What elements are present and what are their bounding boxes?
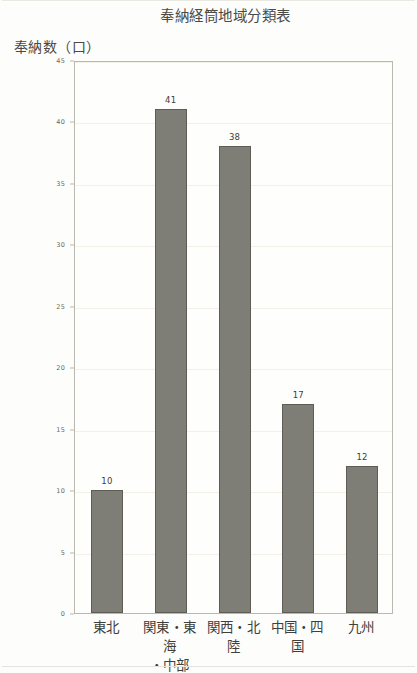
y-tick-label: 30: [56, 241, 65, 249]
bar: [282, 404, 314, 613]
bar: [91, 490, 123, 613]
x-axis-label: 関西・北陸: [202, 618, 266, 656]
x-axis-labels: 東北関東・東海・中部関西・北陸中国・四国九州: [74, 618, 393, 670]
y-tick-label: 5: [61, 549, 65, 557]
y-tick-label: 35: [56, 180, 65, 188]
bar-group: 38: [219, 60, 251, 613]
bar: [219, 146, 251, 613]
y-tick-label: 10: [56, 487, 65, 495]
y-tick-label: 25: [56, 303, 65, 311]
y-tick-label: 0: [61, 610, 65, 618]
x-axis-label: 関東・東海・中部: [138, 618, 202, 673]
bar: [346, 466, 378, 613]
x-axis-label-line: 関東・東海: [143, 619, 196, 654]
y-tick-label: 40: [56, 118, 65, 126]
bar-value-label: 12: [356, 452, 367, 462]
x-axis-label: 九州: [329, 618, 393, 637]
bar-value-label: 10: [101, 476, 112, 486]
y-tick-label: 20: [56, 364, 65, 372]
chart-title: 奉納経筒地域分類表: [0, 4, 417, 25]
bar-value-label: 41: [165, 95, 176, 105]
x-axis-label: 中国・四国: [265, 618, 329, 656]
bar-value-label: 38: [229, 132, 240, 142]
bar-value-label: 17: [293, 390, 304, 400]
bar-series: 1041381712: [75, 62, 392, 613]
plot-area: 1041381712: [74, 61, 393, 614]
bar-group: 10: [91, 60, 123, 613]
bar: [155, 109, 187, 613]
chart-page: 奉納経筒地域分類表 奉納数（口） 051015202530354045 1041…: [0, 0, 417, 673]
x-axis-label-line: 九州: [348, 619, 374, 635]
x-axis-label-line: 中国・四国: [271, 619, 324, 654]
x-axis-label-line: ・中部: [138, 656, 202, 673]
bar-group: 41: [155, 60, 187, 613]
x-axis-label-line: 東北: [93, 619, 119, 635]
y-axis-ticks: 051015202530354045: [0, 61, 74, 614]
x-axis-label-line: 関西・北陸: [207, 619, 260, 654]
y-tick-label: 45: [56, 57, 65, 65]
x-axis-label: 東北: [74, 618, 138, 637]
bar-group: 12: [346, 60, 378, 613]
y-axis-title: 奉納数（口）: [14, 36, 100, 56]
bar-group: 17: [282, 60, 314, 613]
y-tick-label: 15: [56, 426, 65, 434]
